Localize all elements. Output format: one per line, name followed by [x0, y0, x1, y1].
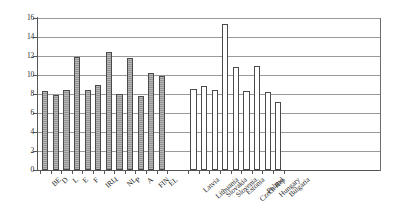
y-tick-label: 12 [27, 52, 34, 60]
bar [138, 96, 144, 170]
gridline [38, 18, 380, 19]
x-tick-mark [125, 170, 126, 174]
bar [63, 90, 69, 170]
x-tick-label: A [145, 176, 154, 186]
x-tick-mark [114, 170, 115, 174]
x-tick-mark [231, 170, 232, 174]
bar [127, 58, 133, 170]
x-tick-mark [135, 170, 136, 174]
bar [148, 73, 154, 170]
bar [243, 91, 249, 170]
y-tick-label: 4 [30, 128, 34, 136]
x-tick-mark [40, 170, 41, 174]
x-tick-mark [262, 170, 263, 174]
x-tick-mark [82, 170, 83, 174]
y-tick-label: 8 [30, 90, 34, 98]
bar [190, 89, 196, 170]
x-tick-mark [104, 170, 105, 174]
x-tick-label: L [71, 176, 80, 185]
x-tick-mark [273, 170, 274, 174]
bar [222, 24, 228, 170]
y-tick-label: 6 [30, 109, 34, 117]
y-tick-label: 14 [27, 33, 34, 41]
x-tick-mark [93, 170, 94, 174]
y-tick-label: 16 [27, 14, 34, 22]
plot-area [38, 18, 380, 170]
bar [85, 90, 91, 170]
x-tick-mark [241, 170, 242, 174]
bar [42, 91, 48, 170]
bar [212, 90, 218, 170]
x-tick-mark [72, 170, 73, 174]
x-tick-mark [146, 170, 147, 174]
x-tick-mark [51, 170, 52, 174]
x-tick-label: EL [167, 176, 179, 188]
bar [233, 67, 239, 170]
x-tick-mark [61, 170, 62, 174]
bar [159, 76, 165, 170]
x-tick-label: E [81, 176, 90, 185]
bar [95, 85, 101, 170]
bar-chart: 0246810121416 BEDLEFIRLINLPAFINELLatviaL… [0, 0, 400, 223]
gridline [38, 75, 380, 76]
x-tick-label: D [60, 176, 69, 186]
bar [265, 92, 271, 170]
gridline [38, 56, 380, 57]
x-tick-mark [252, 170, 253, 174]
bar [106, 52, 112, 170]
bar [53, 95, 59, 170]
plot-border-right [380, 18, 381, 171]
gridline [38, 37, 380, 38]
x-tick-mark [157, 170, 158, 174]
x-tick-mark [188, 170, 189, 174]
x-tick-mark [284, 170, 285, 174]
y-tick-label: 0 [30, 166, 34, 174]
x-tick-mark [209, 170, 210, 174]
bar [254, 66, 260, 171]
x-tick-mark [199, 170, 200, 174]
y-tick-label: 10 [27, 71, 34, 79]
bar [275, 102, 281, 170]
x-tick-mark [220, 170, 221, 174]
x-tick-mark [167, 170, 168, 174]
bar [201, 86, 207, 170]
x-tick-label: F [92, 176, 100, 185]
bar [74, 57, 80, 170]
bar [116, 94, 122, 170]
y-tick-label: 2 [30, 147, 34, 155]
